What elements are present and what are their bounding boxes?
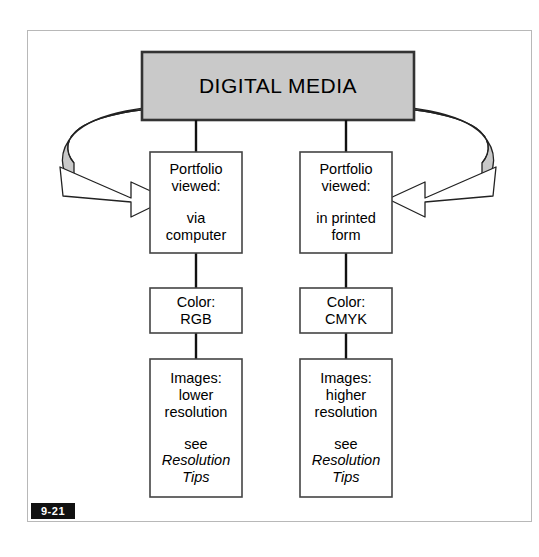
box-label-color-rgb: Color: RGB	[150, 288, 242, 333]
text-line: Portfolio	[319, 161, 372, 178]
text-line: Color:	[177, 294, 216, 311]
text-line: CMYK	[325, 311, 367, 328]
box-label-portfolio-viewed-computer: Portfolio viewed: via computer	[150, 152, 242, 253]
box-label-color-cmyk: Color: CMYK	[300, 288, 392, 333]
text-line: higher	[326, 387, 366, 404]
text-line: viewed:	[171, 178, 220, 195]
box-label-portfolio-viewed-print: Portfolio viewed: in printed form	[300, 152, 392, 253]
text-line: Portfolio	[169, 161, 222, 178]
text-line: resolution	[315, 404, 378, 421]
box-label-images-higher-resolution: Images: higher resolution see Resolution…	[300, 359, 392, 497]
text-line-italic: Resolution	[312, 452, 381, 469]
text-line: lower	[179, 387, 214, 404]
figure-canvas: DIGITAL MEDIA Portfolio viewed: via comp…	[0, 0, 539, 557]
text-line: in printed	[316, 210, 376, 227]
text-line: see	[184, 436, 207, 453]
text-line: Images:	[170, 370, 222, 387]
header-box-label: DIGITAL MEDIA	[142, 52, 414, 120]
text-line: viewed:	[321, 178, 370, 195]
text-line: via	[187, 210, 206, 227]
text-line-italic: Resolution	[162, 452, 231, 469]
text-line-italic: Tips	[332, 469, 359, 486]
figure-number-badge: 9-21	[31, 503, 75, 519]
text-line: see	[334, 436, 357, 453]
text-line: resolution	[165, 404, 228, 421]
text-line: Color:	[327, 294, 366, 311]
text-line: computer	[166, 227, 226, 244]
text-line: RGB	[180, 311, 211, 328]
text-line: form	[332, 227, 361, 244]
text-line-italic: Tips	[182, 469, 209, 486]
box-label-images-lower-resolution: Images: lower resolution see Resolution …	[150, 359, 242, 497]
text-line: Images:	[320, 370, 372, 387]
